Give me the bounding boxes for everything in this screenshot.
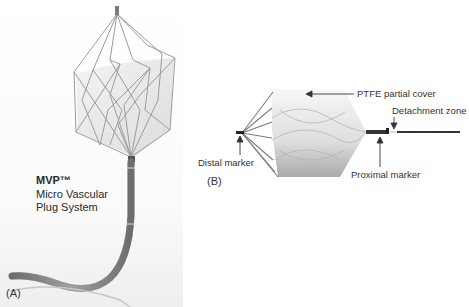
proximal-marker-label: Proximal marker — [351, 170, 420, 180]
device-illustrations — [0, 0, 469, 307]
detachment-zone-label: Detachment zone — [392, 106, 466, 116]
panel-a-letter: (A) — [6, 287, 21, 299]
product-name: MVP™ — [36, 174, 108, 188]
ptfe-cover-label: PTFE partial cover — [357, 89, 436, 99]
product-line-1: Micro Vascular — [36, 188, 108, 202]
product-line-2: Plug System — [36, 201, 108, 215]
mvp-plug-b — [236, 89, 460, 177]
distal-marker-label: Distal marker — [198, 158, 254, 168]
panel-b-letter: (B) — [207, 175, 222, 187]
mvp-plug-a — [10, 6, 175, 307]
product-title: MVP™ Micro Vascular Plug System — [36, 174, 108, 215]
